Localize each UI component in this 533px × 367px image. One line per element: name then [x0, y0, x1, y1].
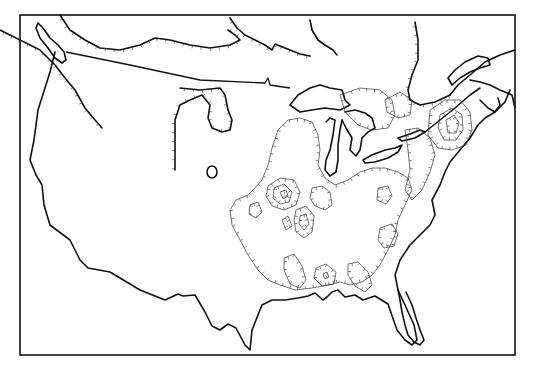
- hachure-tick: [304, 207, 306, 209]
- hachure-tick: [41, 53, 43, 55]
- hachure-tick: [331, 270, 333, 272]
- hachure-tick: [271, 184, 273, 186]
- map-figure: [0, 0, 533, 367]
- hachure-tick: [267, 48, 269, 50]
- hachure-tick: [454, 131, 457, 132]
- hachure-tick: [386, 188, 389, 189]
- hachure-tick: [336, 185, 337, 188]
- hachure-tick: [266, 195, 269, 197]
- hachure-tick: [390, 238, 393, 239]
- hachure-tick: [359, 280, 360, 283]
- hachure-tick: [383, 252, 386, 253]
- hachure-tick: [323, 206, 324, 209]
- hachure-tick: [284, 191, 285, 194]
- hachure-tick: [352, 263, 353, 266]
- hachure-tick: [233, 225, 236, 226]
- hachure-tick: [364, 171, 365, 174]
- hachure-tick: [48, 60, 50, 62]
- hachure-tick: [283, 185, 285, 187]
- hachure-tick: [389, 195, 392, 196]
- hachure-tick: [289, 225, 291, 227]
- hachure-tick: [266, 169, 269, 170]
- lake-ontario: [398, 130, 425, 141]
- hachure-tick: [427, 138, 429, 140]
- hachure-tick: [348, 113, 350, 115]
- hudson-bay-shore: [230, 18, 310, 56]
- hachure-tick: [384, 227, 385, 230]
- hachure-tick: [394, 223, 397, 224]
- hachure-tick: [247, 196, 248, 199]
- hachure-tick: [295, 187, 298, 188]
- hachure-tick: [254, 204, 255, 207]
- contour-nebraska-small: [249, 202, 262, 218]
- hachure-tick: [262, 272, 264, 274]
- hachure-tick: [319, 281, 321, 283]
- hachure-tick: [431, 153, 434, 154]
- hachure-tick: [314, 277, 317, 278]
- contour-ozark-outer: [294, 206, 314, 238]
- hachure-tick: [369, 283, 372, 284]
- hachure-tick: [426, 174, 429, 175]
- hachure-tick: [302, 276, 305, 277]
- hachure-tick: [408, 187, 411, 188]
- canada-coast-north: [60, 15, 240, 50]
- hachure-tick: [397, 215, 400, 216]
- vancouver-island: [36, 23, 66, 63]
- hachure-tick: [311, 198, 314, 200]
- hachure-tick: [287, 220, 290, 221]
- hachure-tick: [282, 196, 285, 197]
- hachure-tick: [328, 204, 330, 206]
- hachure-tick: [313, 130, 316, 131]
- hachure-tick: [285, 200, 286, 203]
- hudson-bay-east: [310, 20, 337, 55]
- hachure-tick: [350, 178, 352, 180]
- hachure-tick: [354, 119, 356, 121]
- hachure-tick: [287, 197, 290, 198]
- hachure-tick: [278, 187, 279, 190]
- hachure-tick: [387, 124, 390, 125]
- lake-winnipeg: [175, 88, 232, 170]
- contour-new-england-inner: [446, 115, 459, 133]
- hachure-tick: [311, 192, 314, 193]
- hachure-tick: [390, 111, 391, 114]
- hachure-tick: [390, 103, 393, 104]
- hachure-tick: [456, 123, 459, 124]
- contour-mississippi-outer: [314, 264, 336, 286]
- hachure-tick: [294, 201, 297, 202]
- hachure-tick: [252, 260, 254, 262]
- lake-michigan: [325, 118, 342, 176]
- hachure-tick: [248, 253, 251, 254]
- lake-huron: [342, 110, 375, 156]
- hachure-tick: [304, 120, 305, 123]
- hachure-tick: [316, 203, 317, 206]
- international-border: [66, 52, 290, 88]
- hachure-tick: [263, 176, 266, 177]
- hachure-tick: [456, 145, 457, 148]
- hachure-tick: [407, 98, 409, 100]
- contour-new-england-mid: [438, 108, 463, 140]
- hachure-tick: [297, 262, 299, 264]
- hachure-tick: [465, 108, 467, 110]
- hachure-tick: [278, 179, 280, 181]
- hachure-tick: [359, 88, 360, 91]
- hachure-tick: [411, 197, 413, 199]
- hachure-tick: [282, 283, 283, 286]
- hachure-tick: [292, 255, 294, 257]
- hachure-tick: [316, 269, 319, 270]
- hachure-tick: [273, 146, 276, 147]
- hachure-tick: [400, 208, 403, 209]
- hachure-tick: [275, 138, 278, 139]
- hachure-tick: [459, 131, 461, 133]
- hachure-tick: [85, 110, 87, 112]
- hachure-tick: [59, 73, 61, 75]
- map-svg: [0, 0, 533, 367]
- hachure-tick: [288, 191, 290, 193]
- hachure-tick: [336, 280, 337, 283]
- hachure-tick: [449, 118, 451, 121]
- hachure-tick: [326, 275, 327, 278]
- hachure-tick: [321, 283, 322, 286]
- contour-alabama: [348, 262, 372, 292]
- hachure-tick: [287, 276, 290, 277]
- hachure-tick: [401, 94, 403, 96]
- hachure-tick: [278, 131, 281, 132]
